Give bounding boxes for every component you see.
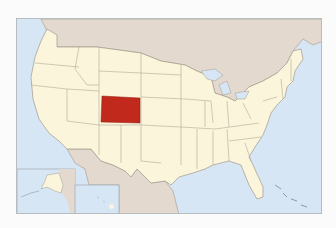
colorado-state	[101, 96, 140, 123]
map-svg: Alaska Hawaii	[17, 19, 322, 214]
bahamas	[275, 185, 307, 207]
us-locator-map: Map of the United States with Colorado h…	[16, 18, 322, 214]
